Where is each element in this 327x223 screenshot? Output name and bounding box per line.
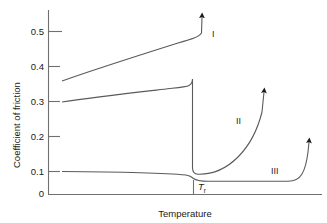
y-axis-title: Coefficient of friction [12, 82, 22, 168]
y-tick-label-0.1: 0.1 [24, 167, 44, 177]
curve-label-II: II [236, 117, 241, 126]
x-axis-title: Temperature [130, 209, 240, 219]
tr-marker-label: Tr [198, 182, 206, 194]
y-tick-label-0: 0 [24, 189, 44, 199]
y-tick-label-0.2: 0.2 [24, 132, 44, 142]
chart-plot-area [0, 0, 327, 223]
y-axis-ticks [49, 32, 63, 172]
y-tick-label-0.5: 0.5 [24, 27, 44, 37]
y-tick-label-0.3: 0.3 [24, 97, 44, 107]
curve-I-path [62, 17, 202, 81]
friction-temperature-chart: 0.5 0.4 0.3 0.2 0.1 0 Temperature Coeffi… [0, 0, 327, 223]
tr-subscript: r [204, 187, 206, 194]
y-tick-label-0.4: 0.4 [24, 62, 44, 72]
curve-II-path [62, 79, 264, 174]
curve-label-III: III [271, 167, 279, 176]
curve-label-I: I [212, 30, 215, 39]
